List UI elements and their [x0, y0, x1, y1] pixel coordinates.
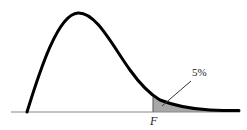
- f-distribution-chart: [0, 0, 247, 130]
- density-curve: [27, 13, 239, 112]
- tail-area-label: 5%: [192, 66, 207, 78]
- annotation-leader-line: [162, 81, 191, 106]
- critical-value-label: F: [150, 114, 157, 129]
